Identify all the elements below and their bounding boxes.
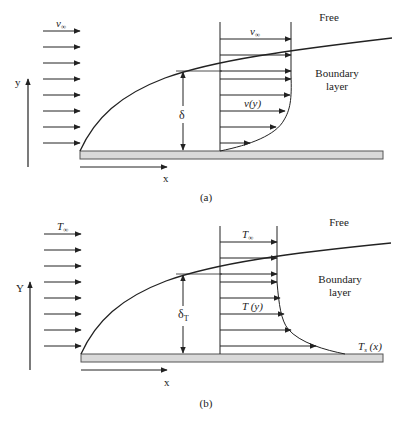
profile-label: T (y) (242, 300, 263, 313)
boundary-layer-label-line2: layer (326, 80, 348, 92)
x-axis-label: x (164, 376, 170, 388)
temperature-profile-arrows (220, 242, 316, 346)
panel-caption: (b) (200, 397, 213, 410)
boundary-layer-label-line1: Boundary (315, 67, 359, 79)
thickness-label: δ (179, 108, 185, 122)
surface-temperature-label: Ts (x) (358, 340, 382, 354)
freestream-arrows (43, 31, 80, 143)
y-axis-label: y (15, 76, 21, 88)
y-axis-label: Y (16, 282, 24, 294)
velocity-profile-arrows (220, 39, 291, 143)
flat-plate (80, 151, 383, 159)
freestream-arrows (44, 234, 81, 346)
profile-label: v(y) (244, 97, 261, 110)
profile-top-label: T∞ (242, 228, 253, 242)
velocity-profile-curve (220, 75, 291, 151)
thickness-label: δT (178, 307, 189, 323)
freestream-label: T∞ (57, 220, 68, 234)
free-stream-region-label: Free (329, 216, 349, 228)
panel-b-thermal-boundary-layer: T∞ Y x δT T∞ T (y) Free Boundary layer (16, 216, 391, 410)
panel-caption: (a) (200, 191, 213, 204)
panel-a-velocity-boundary-layer: v∞ y x δ v∞ v(y) (15, 11, 392, 204)
flat-plate (81, 354, 383, 362)
boundary-layer-diagram: v∞ y x δ v∞ v(y) (0, 0, 411, 425)
boundary-layer-label-line1: Boundary (318, 273, 362, 285)
free-stream-region-label: Free (319, 11, 339, 23)
profile-top-label: v∞ (250, 25, 260, 39)
freestream-label: v∞ (56, 17, 66, 31)
x-axis-label: x (163, 172, 169, 184)
boundary-layer-label-line2: layer (329, 286, 351, 298)
